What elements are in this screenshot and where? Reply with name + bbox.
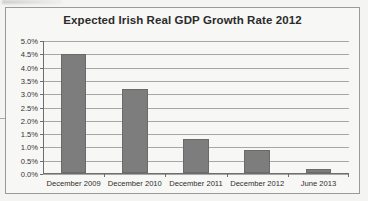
- x-axis-tick-label: December 2009: [47, 179, 101, 188]
- y-axis-tick-label: 4.5%: [21, 50, 38, 59]
- x-axis-tick-label: December 2010: [108, 179, 162, 188]
- gridline: [43, 174, 349, 175]
- x-axis-tick-label: December 2012: [230, 179, 284, 188]
- y-axis-tick-label: 3.0%: [21, 90, 38, 99]
- chart-title: Expected Irish Real GDP Growth Rate 2012: [6, 14, 359, 26]
- x-axis-tick: [348, 174, 349, 177]
- x-axis-tick: [227, 174, 228, 177]
- y-axis-tick-label: 3.5%: [21, 76, 38, 85]
- y-axis-tick-label: 0.5%: [21, 156, 38, 165]
- scan-artifact-top: [2, 0, 62, 4]
- x-axis-tick-label: December 2011: [169, 179, 222, 188]
- chart-figure: Expected Irish Real GDP Growth Rate 2012…: [5, 7, 360, 194]
- x-axis-line: [43, 173, 349, 174]
- y-axis-tick-label: 5.0%: [21, 37, 38, 46]
- y-axis-tick: [40, 174, 43, 175]
- y-axis-tick-label: 4.0%: [21, 63, 38, 72]
- x-axis-tick: [104, 174, 105, 177]
- x-axis-tick-label: June 2013: [301, 179, 336, 188]
- x-axis-tick: [165, 174, 166, 177]
- x-axis-labels-layer: December 2009December 2010December 2011D…: [43, 41, 349, 174]
- y-axis-tick-label: 1.0%: [21, 143, 38, 152]
- y-axis-tick-label: 0.0%: [21, 170, 38, 179]
- x-axis-tick: [288, 174, 289, 177]
- plot-area: 5.0%4.5%4.0%3.5%3.0%2.5%2.0%1.5%1.0%0.5%…: [43, 41, 349, 174]
- y-axis-tick-label: 2.5%: [21, 103, 38, 112]
- y-axis-tick-label: 2.0%: [21, 116, 38, 125]
- y-axis-line: [43, 41, 44, 174]
- y-axis-tick-label: 1.5%: [21, 130, 38, 139]
